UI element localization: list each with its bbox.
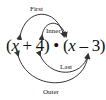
variable-x-1: x (11, 36, 18, 55)
foil-diagram: First Inner Last Outer (x + 4) • (x – 3) (0, 0, 106, 100)
term-plus-4: + 4) (19, 36, 50, 55)
label-last: Last (60, 64, 72, 71)
label-outer: Outer (43, 89, 59, 96)
variable-x-2: x (68, 36, 75, 55)
label-inner: Inner (46, 28, 61, 35)
multiply-dot: • (49, 36, 63, 55)
label-first: First (30, 6, 43, 13)
foil-expression: (x + 4) • (x – 3) (6, 37, 105, 54)
term-minus-3: – 3) (76, 36, 106, 55)
